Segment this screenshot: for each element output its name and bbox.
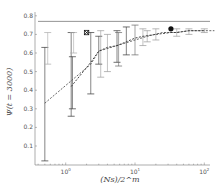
y-tick-label: 0.2: [23, 123, 33, 130]
y-tick-label: 0.1: [23, 142, 33, 149]
x-tick-label: 102: [199, 167, 210, 175]
x-tick-label: 101: [130, 167, 141, 175]
y-tick-label: 0.8: [23, 12, 33, 19]
y-tick-label: 0.5: [23, 68, 33, 75]
y-tick-label: 0.6: [23, 49, 33, 56]
x-tick-label: 100: [61, 167, 72, 175]
y-tick-label: 0.3: [23, 105, 33, 112]
series-line: [45, 31, 215, 104]
data-series: [45, 31, 215, 104]
x-ticks: 100101102: [38, 163, 210, 176]
x-axis-label: (Ns)/2^m: [100, 175, 140, 184]
y-axis-label: Ψ(t = 3000): [5, 68, 14, 117]
y-tick-label: 0.4: [23, 86, 33, 93]
plot-area: 0.10.20.30.40.50.60.70.8 100101102: [23, 12, 214, 175]
chart: 0.10.20.30.40.50.60.70.8 100101102 (Ns)/…: [0, 0, 222, 192]
y-tick-label: 0.7: [23, 30, 33, 37]
circle-marker: [168, 26, 173, 31]
error-bars: [41, 25, 207, 161]
